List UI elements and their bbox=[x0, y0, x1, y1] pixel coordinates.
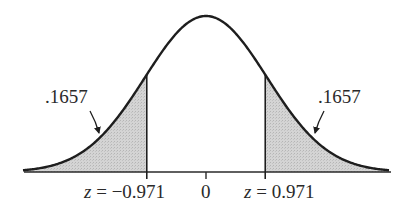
left-arrow-icon bbox=[90, 111, 99, 133]
left-z-num: −0.971 bbox=[112, 181, 165, 202]
left-z-label: z = −0.971 bbox=[83, 181, 165, 202]
right-area-label: .1657 bbox=[318, 86, 361, 107]
right-z-label: z = 0.971 bbox=[243, 181, 314, 202]
left-z-eq: = bbox=[91, 181, 111, 202]
right-arrow-icon bbox=[315, 111, 324, 133]
left-area-label: .1657 bbox=[45, 86, 88, 107]
right-z-eq: = bbox=[251, 181, 271, 202]
normal-distribution-chart: .1657 .1657 z = −0.971 0 z = 0.971 bbox=[0, 0, 406, 210]
right-z-num: 0.971 bbox=[272, 181, 315, 202]
center-label: 0 bbox=[201, 181, 211, 202]
